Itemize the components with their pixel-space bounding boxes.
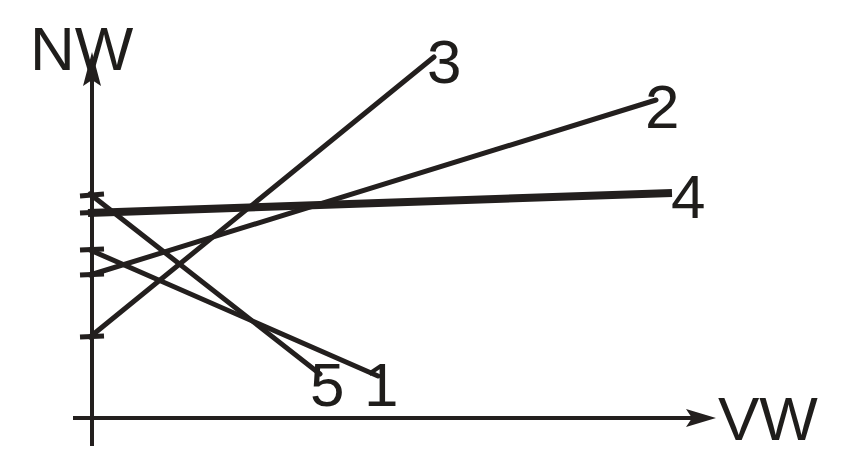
series-group bbox=[88, 57, 672, 376]
series-line-4[interactable] bbox=[88, 193, 672, 213]
series-line-3[interactable] bbox=[90, 57, 434, 337]
label-group: NW VW 3 2 4 5 1 bbox=[30, 14, 818, 453]
series-label-1: 1 bbox=[364, 350, 398, 419]
figure-canvas: NW VW 3 2 4 5 1 bbox=[0, 0, 857, 471]
series-line-2[interactable] bbox=[90, 100, 656, 275]
y-axis-label: NW bbox=[30, 14, 134, 83]
series-label-4: 4 bbox=[671, 162, 705, 231]
line-chart: NW VW 3 2 4 5 1 bbox=[0, 0, 857, 471]
series-label-2: 2 bbox=[645, 72, 679, 141]
series-label-3: 3 bbox=[427, 27, 461, 96]
series-label-5: 5 bbox=[310, 350, 344, 419]
x-axis-label: VW bbox=[718, 384, 818, 453]
series-line-5[interactable] bbox=[90, 194, 320, 374]
